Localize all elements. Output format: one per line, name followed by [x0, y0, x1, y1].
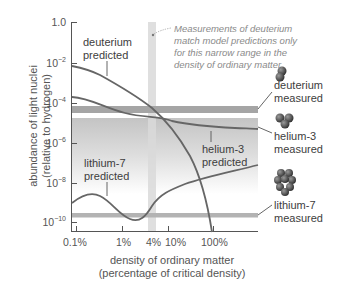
x-axis	[72, 226, 259, 232]
note-pointer-dot	[152, 34, 154, 36]
density-range-note: Measurements of deuterium match model pr…	[174, 23, 297, 71]
helium3-predicted-label: helium-3predicted	[202, 143, 247, 168]
helium3-measured-label: helium-3measured	[274, 130, 323, 155]
deuterium-measured-leader	[258, 92, 272, 109]
x-axis-title: density of ordinary matter (percentage o…	[92, 254, 252, 280]
x-tick-0: 0.1%	[63, 236, 87, 248]
x-tick-4: 100%	[201, 236, 228, 248]
y-axis-title: abundance of light nuclei (relative to h…	[27, 51, 53, 201]
lithium7-measured-band	[72, 213, 258, 218]
lithium7-nucleus-icon	[274, 169, 296, 196]
helium3-nucleus-icon	[276, 114, 294, 129]
x-tick-3: 10%	[165, 236, 186, 248]
x-tick-2: 4%	[146, 236, 161, 248]
y-tick-5: 10−10	[26, 215, 66, 228]
density-highlight-band	[148, 22, 156, 232]
note-pointer-line	[154, 28, 171, 34]
deuterium-measured-label: deuteriummeasured	[274, 79, 323, 104]
x-tick-1: 1%	[116, 236, 131, 248]
y-tick-0: 1.0	[26, 15, 66, 28]
lithium7-measured-label: lithium-7measured	[274, 199, 323, 224]
deuterium-measured-band	[72, 106, 258, 113]
lithium7-predicted-label: lithium-7predicted	[84, 157, 129, 182]
lithium7-measured-leader	[258, 205, 272, 215]
deuterium-predicted-label: deuteriumpredicted	[83, 36, 132, 61]
helium3-measured-leader	[258, 127, 272, 133]
